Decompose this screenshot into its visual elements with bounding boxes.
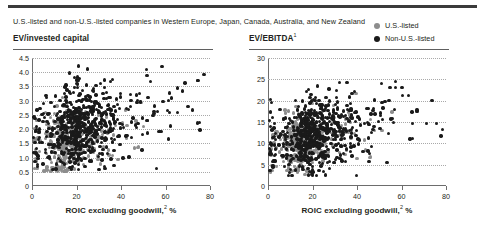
scatter-point <box>45 130 48 133</box>
scatter-point <box>350 92 353 95</box>
scatter-point <box>78 124 81 127</box>
scatter-point <box>338 129 341 132</box>
scatter-point <box>390 110 393 113</box>
scatter-point <box>41 162 44 165</box>
scatter-point <box>326 148 329 151</box>
scatter-point <box>340 137 343 140</box>
y-tick-label: 5 <box>247 160 265 169</box>
scatter-point <box>316 143 319 146</box>
scatter-point <box>77 110 80 113</box>
scatter-point <box>274 147 277 150</box>
scatter-point <box>324 96 327 99</box>
scatter-point <box>114 109 117 112</box>
scatter-point <box>287 122 290 125</box>
scatter-point <box>105 145 108 148</box>
scatter-point <box>65 88 68 91</box>
scatter-point <box>202 73 205 76</box>
scatter-point <box>328 112 331 115</box>
x-tick-label: 40 <box>117 192 125 201</box>
scatter-point <box>56 138 59 141</box>
scatter-point <box>112 164 115 167</box>
scatter-point <box>373 98 376 101</box>
y-tick-label: 0 <box>247 182 265 191</box>
scatter-point <box>315 174 318 177</box>
scatter-point <box>76 86 79 89</box>
scatter-point <box>141 133 144 136</box>
scatter-point <box>293 133 296 136</box>
x-tick-label: 0 <box>266 192 270 201</box>
scatter-point <box>349 135 352 138</box>
scatter-point <box>89 138 92 141</box>
scatter-point <box>299 158 302 161</box>
scatter-point <box>168 91 171 94</box>
x-tick-label: 0 <box>30 192 34 201</box>
scatter-point <box>156 110 159 113</box>
scatter-point <box>338 115 341 118</box>
scatter-point <box>50 161 53 164</box>
scatter-point <box>186 105 189 108</box>
scatter-point <box>381 106 384 109</box>
scatter-point <box>49 101 52 104</box>
scatter-point <box>289 154 292 157</box>
scatter-point <box>332 110 335 113</box>
x-tick-mark <box>121 186 122 190</box>
scatter-point <box>326 125 329 128</box>
scatter-point <box>45 135 48 138</box>
scatter-point <box>361 150 364 153</box>
scatter-point <box>290 174 293 177</box>
x-tick-mark <box>166 186 167 190</box>
scatter-point <box>411 122 414 125</box>
scatter-point <box>83 118 86 121</box>
scatter-point <box>349 145 352 148</box>
scatter-point <box>354 134 357 137</box>
scatter-point <box>112 105 115 108</box>
scatter-point <box>81 138 84 141</box>
x-tick-mark <box>77 186 78 190</box>
scatter-point <box>380 101 383 104</box>
scatter-point <box>348 109 351 112</box>
panel-ev-ebitda: EV/EBITDA1 ROIC excluding goodwill,2 % 0… <box>249 34 462 234</box>
x-tick-label: 60 <box>162 192 170 201</box>
scatter-point <box>196 121 199 124</box>
scatter-point <box>63 162 66 165</box>
scatter-point <box>308 101 311 104</box>
scatter-point <box>327 154 330 157</box>
scatter-point <box>304 120 307 123</box>
scatter-point <box>89 130 92 133</box>
scatter-point <box>321 122 324 125</box>
scatter-point <box>99 162 102 165</box>
y-tick-label: 2.5 <box>11 110 29 119</box>
scatter-point <box>393 108 396 111</box>
scatter-point <box>329 142 332 145</box>
scatter-point <box>407 94 410 97</box>
scatter-point <box>129 93 132 96</box>
scatter-point <box>339 153 342 156</box>
scatter-point <box>296 128 299 131</box>
scatter-point <box>49 134 52 137</box>
scatter-point <box>109 129 112 132</box>
scatter-point <box>100 114 103 117</box>
scatter-point <box>100 141 103 144</box>
scatter-point <box>295 144 298 147</box>
scatter-point <box>52 144 55 147</box>
scatter-point <box>301 165 304 168</box>
scatter-point <box>306 135 309 138</box>
scatter-point <box>289 159 292 162</box>
scatter-point <box>338 81 341 84</box>
scatter-point <box>435 122 438 125</box>
scatter-point <box>125 134 128 137</box>
scatter-point <box>125 107 128 110</box>
exhibit-container: U.S.-listed and non-U.S.-listed companie… <box>0 0 485 238</box>
scatter-point <box>295 137 298 140</box>
y-tick-label: 0.5 <box>11 167 29 176</box>
scatter-point <box>349 102 352 105</box>
scatter-point <box>161 100 164 103</box>
x-axis-title-right: ROIC excluding goodwill,2 % <box>268 206 446 215</box>
scatter-point <box>328 99 331 102</box>
scatter-point <box>116 103 119 106</box>
scatter-point <box>196 79 199 82</box>
scatter-point <box>352 144 355 147</box>
scatter-point <box>106 108 109 111</box>
scatter-point <box>272 126 275 129</box>
scatter-point <box>111 140 114 143</box>
